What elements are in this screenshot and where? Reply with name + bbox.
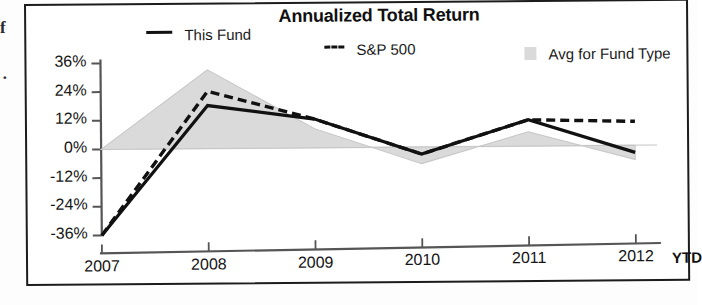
plot-area xyxy=(24,0,690,286)
x-axis-label: 2012 xyxy=(601,247,671,266)
x-axis-label: 2008 xyxy=(174,255,244,274)
y-axis-label: 12% xyxy=(25,110,87,128)
area-avg-for-fund-type xyxy=(101,66,636,166)
y-axis-label: -36% xyxy=(26,225,88,243)
chart-container: Annualized Total Return This Fund S&P 50… xyxy=(24,0,690,286)
y-axis-label: 24% xyxy=(25,81,87,99)
y-axis-label: -24% xyxy=(26,196,88,214)
x-axis-line xyxy=(100,243,661,253)
y-axis-line xyxy=(100,59,101,235)
margin-scrap-dot: · xyxy=(2,68,8,88)
y-axis-label: -12% xyxy=(25,167,87,185)
y-axis-label: 0% xyxy=(25,139,87,157)
x-axis-label: 2011 xyxy=(494,249,564,268)
axes xyxy=(91,55,661,253)
x-axis-label: 2009 xyxy=(281,253,351,272)
y-axis-label: 36% xyxy=(24,53,86,71)
x-axis-label: 2007 xyxy=(67,257,137,276)
x-axis-label: 2010 xyxy=(387,251,457,270)
series-area-avg-for-fund-type xyxy=(101,66,636,166)
x-axis-ytd-label: YTD xyxy=(672,249,702,266)
margin-scrap-letter: f xyxy=(0,18,6,38)
